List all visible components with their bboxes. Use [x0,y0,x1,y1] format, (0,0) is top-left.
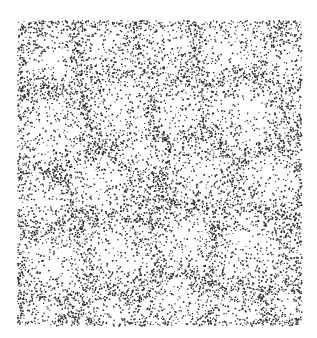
stipple-illustration [0,0,317,338]
